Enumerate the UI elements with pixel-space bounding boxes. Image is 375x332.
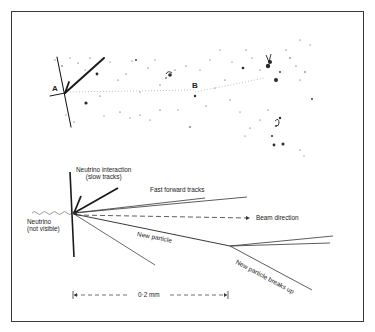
label-interaction-line1: Neutrino interaction — [76, 166, 131, 173]
label-interaction-line2: (slow tracks) — [76, 173, 131, 180]
label-neutrino: Neutrino (not visible) — [27, 218, 60, 233]
beam-arrowhead-icon — [246, 216, 250, 220]
label-fast-forward-tracks: Fast forward tracks — [150, 186, 204, 193]
schematic-diagram — [0, 0, 375, 332]
beam-direction-line — [76, 215, 248, 218]
fast-track-1 — [74, 198, 205, 213]
label-neutrino-line2: (not visible) — [27, 225, 60, 232]
label-neutrino-line1: Neutrino — [27, 218, 60, 225]
label-beam-direction: Beam direction — [256, 214, 299, 221]
scale-arrow-left-icon — [74, 293, 77, 297]
label-scale: 0·2 mm — [138, 291, 160, 298]
neutrino-wavy-line — [32, 212, 72, 215]
new-particle-track — [74, 214, 230, 246]
lower-track — [74, 214, 155, 265]
label-neutrino-interaction: Neutrino interaction (slow tracks) — [76, 166, 131, 181]
fast-track-2 — [74, 197, 247, 213]
scale-arrow-right-icon — [224, 293, 227, 297]
